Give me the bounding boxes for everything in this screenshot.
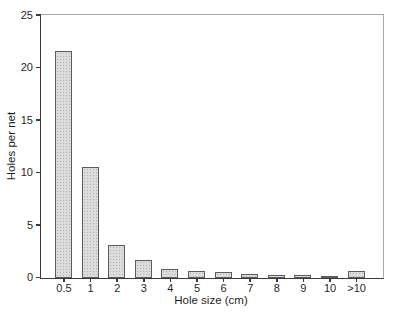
y-tick-20 — [36, 67, 41, 69]
y-tick-label-5: 5 — [0, 218, 33, 233]
bar-4 — [161, 269, 178, 278]
x-axis-label: Hole size (cm) — [111, 294, 311, 306]
plot-area — [40, 14, 384, 279]
bar-0.5 — [55, 51, 72, 278]
y-tick-10 — [36, 172, 41, 174]
y-tick-label-0: 0 — [0, 270, 33, 285]
bar-5 — [188, 271, 205, 278]
bar-2 — [108, 245, 125, 278]
y-tick-label-20: 20 — [0, 60, 33, 75]
y-tick-25 — [36, 14, 41, 16]
x-tick-label->10: >10 — [340, 282, 374, 295]
bar-3 — [135, 260, 152, 278]
bar-1 — [82, 167, 99, 278]
bar->10 — [348, 271, 365, 278]
y-tick-label-25: 25 — [0, 8, 33, 23]
y-tick-0 — [36, 277, 41, 279]
y-tick-15 — [36, 119, 41, 121]
y-tick-5 — [36, 224, 41, 226]
y-axis-label: Holes per net — [4, 108, 18, 184]
bar-chart-figure: 0510152025 0.512345678910>10 Holes per n… — [0, 0, 395, 318]
